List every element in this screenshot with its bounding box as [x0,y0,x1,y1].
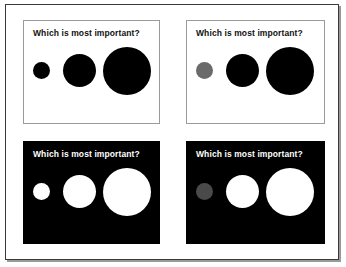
circle-medium[interactable] [226,175,259,208]
panel-top-right[interactable]: Which is most important? [186,20,325,124]
panel-bottom-left[interactable]: Which is most important? [23,141,160,244]
circle-large[interactable] [103,168,151,216]
circle-medium[interactable] [63,175,96,208]
panel-title: Which is most important? [196,149,303,159]
panel-title: Which is most important? [33,149,140,159]
circle-row [187,43,324,115]
circle-large[interactable] [266,168,314,216]
screenshot-root: Which is most important? Which is most i… [0,0,346,267]
panel-title: Which is most important? [196,28,303,38]
panel-grid: Which is most important? Which is most i… [0,0,346,267]
panel-top-left[interactable]: Which is most important? [23,20,160,124]
circle-medium[interactable] [226,54,259,87]
panel-title: Which is most important? [33,28,140,38]
circle-row [24,164,159,236]
circle-small[interactable] [196,183,213,200]
circle-large[interactable] [266,47,314,95]
circle-small[interactable] [33,62,50,79]
circle-small[interactable] [196,62,213,79]
circle-large[interactable] [103,47,151,95]
circle-small[interactable] [33,183,50,200]
panel-bottom-right[interactable]: Which is most important? [186,141,325,244]
circle-medium[interactable] [63,54,96,87]
circle-row [24,43,159,115]
circle-row [187,164,324,236]
